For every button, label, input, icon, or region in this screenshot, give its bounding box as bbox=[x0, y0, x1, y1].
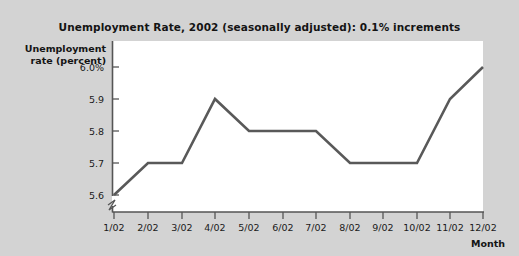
y-axis-break-icon bbox=[108, 200, 116, 210]
x-axis-ticks bbox=[114, 212, 483, 219]
data-series-line bbox=[114, 67, 483, 195]
plot-svg bbox=[0, 0, 519, 256]
axis-lines bbox=[113, 41, 485, 213]
chart-figure: Unemployment Rate, 2002 (seasonally adju… bbox=[0, 0, 519, 256]
